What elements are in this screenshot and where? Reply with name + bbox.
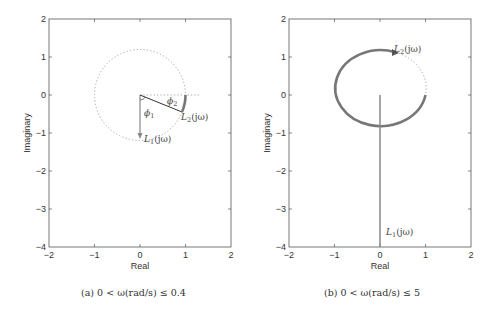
- L2-arc-a: [182, 95, 186, 112]
- panel-b: −2 −1 0 1 2 2 1 0 −1 −2 −3 −4 Real Imagi…: [262, 14, 474, 271]
- x-axis-label-a: Real: [131, 261, 150, 271]
- svg-text:−1: −1: [89, 250, 99, 260]
- phi1-angle-arc: [140, 97, 145, 100]
- y-tick-labels-b: 2 1 0 −1 −2 −3 −4: [276, 14, 286, 252]
- svg-text:−2: −2: [36, 166, 46, 176]
- svg-text:−4: −4: [36, 242, 46, 252]
- L2-label-a: L2(jω): [180, 112, 208, 124]
- svg-text:1: 1: [423, 250, 428, 260]
- svg-text:−3: −3: [36, 204, 46, 214]
- svg-text:2: 2: [468, 250, 473, 260]
- svg-text:0: 0: [281, 90, 286, 100]
- y-axis-label-b: Imaginary: [262, 113, 272, 153]
- x-tick-labels-b: −2 −1 0 1 2: [284, 250, 474, 260]
- caption-b: (b) 0 < ω(rad/s) ≤ 5: [324, 287, 420, 298]
- figure: −2 −1 0 1 2 2 1 0 −1 −2 −3 −4 Real Imagi…: [0, 0, 496, 309]
- L1-label-a: L1(jω): [143, 134, 171, 146]
- svg-text:0: 0: [41, 90, 46, 100]
- x-tick-labels-a: −2 −1 0 1 2: [44, 250, 234, 260]
- svg-text:−4: −4: [276, 242, 286, 252]
- L1-arrowhead-a: [138, 133, 143, 139]
- panel-a: −2 −1 0 1 2 2 1 0 −1 −2 −3 −4 Real Imagi…: [22, 14, 234, 271]
- svg-text:0: 0: [377, 250, 382, 260]
- svg-text:−1: −1: [329, 250, 339, 260]
- x-axis-label-b: Real: [371, 261, 390, 271]
- svg-text:−1: −1: [36, 128, 46, 138]
- y-tick-labels-a: 2 1 0 −1 −2 −3 −4: [36, 14, 46, 252]
- svg-text:2: 2: [281, 14, 286, 24]
- svg-text:1: 1: [41, 52, 46, 62]
- svg-text:1: 1: [281, 52, 286, 62]
- L1-label-b: L1(jω): [385, 227, 413, 239]
- L2-label-b: L2(jω): [393, 44, 421, 56]
- svg-text:2: 2: [41, 14, 46, 24]
- unit-circle-remainder-dotted-b: [396, 52, 427, 95]
- svg-text:1: 1: [183, 250, 188, 260]
- phi1-label: ϕ1: [144, 108, 154, 120]
- y-axis-label-a: Imaginary: [22, 113, 32, 153]
- svg-text:2: 2: [228, 250, 233, 260]
- caption-a: (a) 0 < ω(rad/s) ≤ 0.4: [81, 287, 186, 298]
- svg-text:−1: −1: [276, 128, 286, 138]
- svg-text:0: 0: [137, 250, 142, 260]
- svg-text:−3: −3: [276, 204, 286, 214]
- svg-text:−2: −2: [276, 166, 286, 176]
